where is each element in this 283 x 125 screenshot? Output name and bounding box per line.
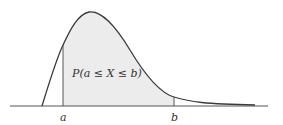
a-label: a [60,111,67,124]
shaded-region [63,12,174,106]
pdf-diagram: P(a ≤ X ≤ b) a b [0,0,283,125]
b-label: b [171,111,178,124]
probability-label: P(a ≤ X ≤ b) [71,67,142,80]
